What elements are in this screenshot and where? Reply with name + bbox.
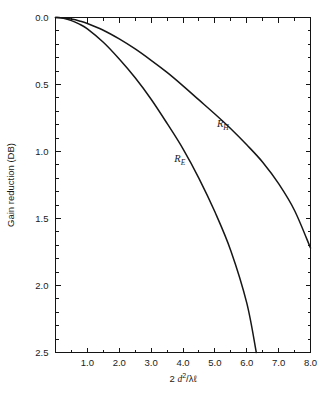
y-tick-label: 1.0 <box>35 146 48 157</box>
y-tick-label: 2.5 <box>35 347 48 358</box>
x-axis-tick-labels: 1.02.03.04.05.06.07.08.0 <box>81 357 317 368</box>
figure-container: 1.02.03.04.05.06.07.08.0 0.00.51.01.52.0… <box>0 0 325 394</box>
y-tick-label: 0.0 <box>35 12 48 23</box>
x-tick-label: 1.0 <box>81 357 94 368</box>
y-tick-label: 2.0 <box>35 280 48 291</box>
curve-r-e <box>56 18 257 353</box>
x-tick-label: 7.0 <box>272 357 285 368</box>
curve-r-h <box>56 18 311 248</box>
x-tick-label: 5.0 <box>208 357 221 368</box>
x-tick-label: 4.0 <box>176 357 189 368</box>
y-axis-ticks <box>56 31 311 339</box>
x-title-denominator: /λℓ <box>186 373 197 384</box>
x-tick-label: 6.0 <box>240 357 253 368</box>
x-tick-label: 2.0 <box>113 357 126 368</box>
data-curves <box>56 18 311 353</box>
x-axis-ticks <box>71 18 294 353</box>
plot-frame <box>56 18 311 353</box>
x-axis-title: 2 d2/λℓ <box>169 372 197 384</box>
y-tick-label: 1.5 <box>35 213 48 224</box>
y-axis-title: Gain reduction (DB) <box>5 143 16 227</box>
series-label-subscript: H <box>222 123 229 132</box>
x-tick-label: 8.0 <box>304 357 317 368</box>
series-label-r-e: RE <box>173 153 185 167</box>
series-label-subscript: E <box>180 158 186 167</box>
x-title-lead: 2 <box>169 373 177 384</box>
gain-reduction-chart: 1.02.03.04.05.06.07.08.0 0.00.51.01.52.0… <box>0 0 325 394</box>
x-tick-label: 3.0 <box>145 357 158 368</box>
y-axis-tick-labels: 0.00.51.01.52.02.5 <box>35 12 48 358</box>
series-labels: RHRE <box>173 118 229 166</box>
y-tick-label: 0.5 <box>35 79 48 90</box>
series-label-r-h: RH <box>216 118 229 132</box>
